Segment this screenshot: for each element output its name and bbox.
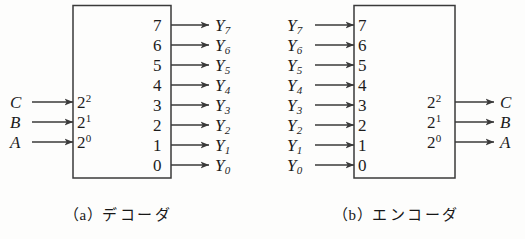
decoder-caption-index: （a） [64, 207, 102, 223]
decoder-output-wires [171, 25, 209, 165]
decoder-caption-name: デコーダ [102, 207, 172, 223]
encoder-output-pin-exp-1: 1 [436, 112, 442, 124]
decoder-output-signal-Y4: Y4 [215, 77, 230, 96]
encoder-input-signal-Y6: Y6 [287, 37, 302, 56]
encoder-input-signal-Y5: Y5 [287, 57, 302, 76]
encoder-output-signal-C: C [500, 94, 511, 111]
decoder-input-pin-weight-4: 22 [77, 93, 91, 111]
encoder-input-signal-Y7: Y7 [287, 17, 302, 36]
encoder-input-pin-3: 3 [358, 97, 367, 114]
decoder-output-pin-7: 7 [153, 17, 162, 34]
decoder-output-signal-Y2: Y2 [215, 117, 230, 136]
decoder-output-pin-0: 0 [153, 157, 162, 174]
encoder-caption: （b）エンコーダ [333, 203, 459, 224]
encoder-input-pin-4: 4 [358, 77, 367, 94]
encoder-input-pin-6: 6 [358, 37, 367, 54]
encoder-input-signal-Y1: Y1 [287, 137, 302, 156]
decoder-output-pin-4: 4 [153, 77, 162, 94]
encoder-input-pin-7: 7 [358, 17, 367, 34]
encoder-input-pin-0: 0 [358, 157, 367, 174]
encoder-output-pin-exp-0: 0 [436, 132, 442, 144]
encoder-input-pin-1: 1 [358, 137, 367, 154]
decoder-output-signal-Y3: Y3 [215, 97, 230, 116]
encoder-output-signal-A: A [500, 134, 510, 151]
decoder-output-pin-3: 3 [153, 97, 162, 114]
decoder-input-pin-weight-2: 21 [77, 113, 91, 131]
decoder-input-pin-exp-2: 2 [86, 92, 92, 104]
decoder-input-signal-B: B [10, 114, 20, 131]
encoder-output-pin-weight-2: 21 [427, 113, 441, 131]
encoder-output-pin-weight-1: 20 [427, 133, 441, 151]
encoder-caption-name: エンコーダ [372, 207, 459, 223]
decoder-output-signal-Y0: Y0 [215, 157, 230, 176]
encoder-output-wires [455, 102, 494, 142]
decoder-input-pin-exp-1: 1 [86, 112, 92, 124]
encoder-output-signal-B: B [500, 114, 510, 131]
encoder-input-signal-Y2: Y2 [287, 117, 302, 136]
encoder-output-pin-weight-4: 22 [427, 93, 441, 111]
decoder-output-pin-6: 6 [153, 37, 162, 54]
decoder-output-signal-Y6: Y6 [215, 37, 230, 56]
logic-block-diagram-figure: C B A 22 21 20 7 6 5 4 3 2 1 0 Y7 Y6 Y5 … [0, 0, 525, 239]
decoder-output-pin-5: 5 [153, 57, 162, 74]
decoder-output-signal-Y1: Y1 [215, 137, 230, 156]
encoder-input-signal-Y4: Y4 [287, 77, 302, 96]
decoder-input-signal-A: A [10, 134, 20, 151]
decoder-caption: （a）デコーダ [64, 203, 172, 224]
encoder-input-wires [315, 25, 354, 165]
encoder-input-pin-5: 5 [358, 57, 367, 74]
decoder-output-pin-2: 2 [153, 117, 162, 134]
decoder-input-pin-exp-0: 0 [86, 132, 92, 144]
decoder-output-signal-Y5: Y5 [215, 57, 230, 76]
encoder-caption-index: （b） [333, 207, 372, 223]
decoder-input-wires [32, 102, 73, 142]
encoder-output-pin-exp-2: 2 [436, 92, 442, 104]
encoder-input-signal-Y3: Y3 [287, 97, 302, 116]
decoder-output-signal-Y7: Y7 [215, 17, 230, 36]
decoder-input-pin-weight-1: 20 [77, 133, 91, 151]
encoder-input-signal-Y0: Y0 [287, 157, 302, 176]
encoder-input-pin-2: 2 [358, 117, 367, 134]
decoder-input-signal-C: C [10, 94, 21, 111]
decoder-output-pin-1: 1 [153, 137, 162, 154]
